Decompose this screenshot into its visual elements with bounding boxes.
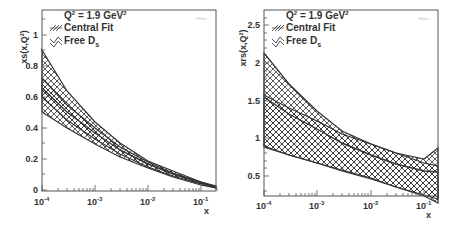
- left-x-axis-label: x: [204, 206, 209, 216]
- right-q2-annotation: Q2 = 1.9 GeV2: [286, 10, 349, 21]
- legend-free-ds-swatch-icon: [50, 37, 62, 47]
- svg-text:0.4: 0.4: [25, 123, 38, 133]
- left-xfitter-watermark: xFitter: [195, 16, 208, 21]
- left-x-ticks: [42, 185, 217, 191]
- svg-text:2: 2: [255, 58, 260, 68]
- right-panel: 0.5 1 1.5 2 2.5 10-4 10-3 10-2 10-1 x xr…: [238, 10, 438, 220]
- left-x-tick-labels: 10-4 10-3 10-2 10-1: [34, 196, 209, 207]
- figure: 0 0.2 0.4 0.6 0.8 1 10-4 10-3 10-2 10-1 …: [0, 0, 456, 226]
- svg-text:1.5: 1.5: [247, 96, 260, 106]
- legend-free-ds-label: Free Ds: [286, 35, 321, 48]
- right-legend: Central Fit Free Ds: [272, 22, 336, 48]
- legend-central-fit-label: Central Fit: [286, 22, 336, 33]
- svg-text:2.5: 2.5: [247, 20, 260, 30]
- right-xfitter-watermark: xFitter: [417, 16, 430, 21]
- svg-text:0.2: 0.2: [25, 154, 38, 164]
- legend-free-ds-swatch-icon: [272, 37, 284, 47]
- svg-text:10-2: 10-2: [140, 196, 156, 207]
- left-panel: 0 0.2 0.4 0.6 0.8 1 10-4 10-3 10-2 10-1 …: [19, 10, 217, 216]
- left-legend: Central Fit Free Ds: [50, 22, 114, 48]
- legend-central-fit-swatch-icon: [272, 25, 284, 31]
- svg-text:10-2: 10-2: [363, 200, 379, 211]
- svg-text:1: 1: [33, 30, 38, 40]
- svg-text:0: 0: [33, 185, 38, 195]
- svg-text:0.5: 0.5: [247, 171, 260, 181]
- right-y-axis-label: xrs(x,Q²): [238, 29, 248, 66]
- svg-text:10-3: 10-3: [309, 200, 325, 211]
- left-y-axis-label: xs(x,Q²): [19, 30, 29, 64]
- right-y-tick-labels: 0.5 1 1.5 2 2.5: [247, 20, 260, 181]
- right-x-ticks: [264, 190, 424, 196]
- right-x-axis-label: x: [426, 210, 431, 220]
- legend-central-fit-label: Central Fit: [64, 22, 114, 33]
- right-x-tick-labels: 10-4 10-3 10-2 10-1: [256, 200, 432, 211]
- svg-text:10-4: 10-4: [256, 200, 272, 211]
- svg-text:1: 1: [255, 133, 260, 143]
- legend-free-ds-label: Free Ds: [64, 35, 99, 48]
- svg-text:10-4: 10-4: [34, 196, 50, 207]
- left-q2-annotation: Q2 = 1.9 GeV2: [64, 10, 127, 21]
- svg-text:10-3: 10-3: [87, 196, 103, 207]
- svg-text:0.6: 0.6: [25, 92, 38, 102]
- legend-central-fit-swatch-icon: [50, 25, 62, 31]
